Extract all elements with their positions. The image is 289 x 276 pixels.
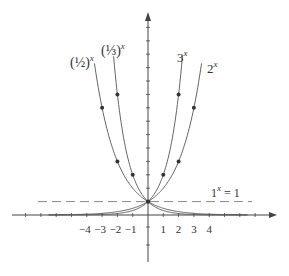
- exponential-functions-plot: −4−3−2−11234 (½)x(⅓)x3x2x1x = 1: [0, 0, 289, 276]
- x-tick-label: −1: [125, 223, 137, 235]
- x-tick-label: 2: [176, 223, 182, 235]
- data-point: [131, 173, 135, 177]
- x-tick-label: −2: [110, 223, 122, 235]
- data-point: [192, 106, 196, 110]
- curve-2^x: [49, 63, 202, 214]
- x-tick-label: 3: [191, 223, 197, 235]
- x-tick-label: 1: [161, 223, 167, 235]
- data-point: [177, 92, 181, 96]
- data-point: [161, 173, 165, 177]
- label-3^x: 3x: [177, 48, 188, 65]
- data-point: [177, 159, 181, 163]
- label-(1/2)^x: (½)x: [70, 53, 94, 71]
- label-2^x: 2x: [207, 59, 218, 76]
- y-axis-arrow-icon: [145, 12, 151, 21]
- label-1x-equals-1: 1x = 1: [211, 183, 240, 200]
- x-tick-label: 4: [206, 223, 212, 235]
- x-tick-label: −3: [94, 223, 106, 235]
- x-tick-label: −4: [79, 223, 91, 235]
- data-point: [100, 106, 104, 110]
- curve-labels: (½)x(⅓)x3x2x1x = 1: [70, 41, 240, 200]
- x-tick-labels: −4−3−2−11234: [79, 223, 213, 235]
- label-(1/3)^x: (⅓)x: [101, 41, 125, 59]
- axes: [12, 12, 277, 262]
- data-point: [115, 159, 119, 163]
- data-point: [115, 92, 119, 96]
- common-point: [146, 199, 150, 203]
